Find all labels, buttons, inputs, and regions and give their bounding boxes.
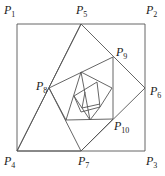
label-p3: P3 xyxy=(146,155,157,170)
label-p5: P5 xyxy=(76,4,87,19)
label-p1: P1 xyxy=(4,4,15,19)
label-p8: P8 xyxy=(36,80,47,95)
quad-p8-p9-p10 xyxy=(49,57,113,120)
label-p7: P7 xyxy=(78,155,89,170)
label-p10: P10 xyxy=(114,120,129,135)
diagram-lines xyxy=(0,0,165,176)
inner-quad-2 xyxy=(74,82,100,112)
label-p9: P9 xyxy=(116,46,127,61)
nested-squares-diagram: P1 P2 P3 P4 P5 P6 P7 P8 P9 P10 xyxy=(0,0,165,176)
label-p4: P4 xyxy=(4,155,15,170)
label-p6: P6 xyxy=(150,85,161,100)
label-p2: P2 xyxy=(146,4,157,19)
